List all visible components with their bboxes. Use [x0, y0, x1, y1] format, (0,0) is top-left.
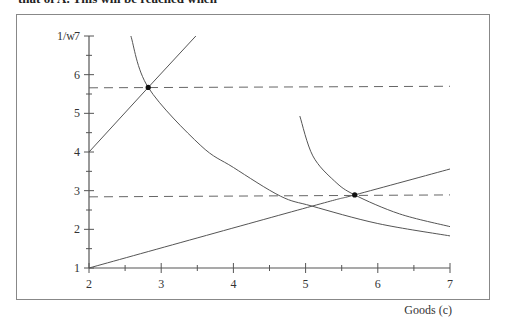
lower-indifference-curve-series: [131, 36, 450, 236]
lower-dashed-level-series: [89, 195, 450, 197]
upper-indifference-curve-series: [300, 116, 450, 227]
chart-plot: 12345672345671/wGoods (c): [0, 0, 506, 318]
y-tick-label: 2: [74, 222, 80, 236]
x-tick-label: 3: [158, 277, 164, 291]
x-axis-label: Goods (c): [404, 303, 452, 317]
lower-tangency-point-marker: [352, 192, 357, 197]
upper-dashed-level-series: [89, 86, 450, 88]
y-tick-label: 1: [74, 261, 80, 275]
y-tick-label: 4: [74, 145, 80, 159]
y-tick-label: 5: [74, 106, 80, 120]
x-tick-label: 2: [86, 277, 92, 291]
upper-tangency-point-marker: [146, 85, 151, 90]
x-tick-label: 7: [447, 277, 453, 291]
y-axis-label: 1/w: [57, 29, 75, 43]
shallow-line-series: [89, 169, 450, 268]
steep-line-series: [89, 36, 196, 152]
x-tick-label: 4: [230, 277, 236, 291]
x-tick-label: 6: [375, 277, 381, 291]
y-tick-label: 6: [74, 68, 80, 82]
y-tick-label: 3: [74, 184, 80, 198]
x-tick-label: 5: [303, 277, 309, 291]
